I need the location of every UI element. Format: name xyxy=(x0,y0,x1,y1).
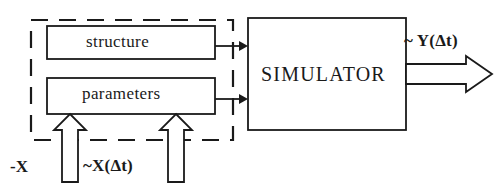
simulator-box-label: SIMULATOR xyxy=(261,64,386,84)
x-delta-block-arrow xyxy=(160,114,192,182)
simulator-block-diagram: structure parameters SIMULATOR -X ~X(Δt)… xyxy=(0,0,502,192)
diagram-canvas xyxy=(0,0,502,192)
x-input-block-arrow xyxy=(54,114,86,182)
parameters-to-simulator-connector xyxy=(215,94,248,104)
structure-to-simulator-connector xyxy=(215,41,248,51)
structure-box-label: structure xyxy=(86,33,149,50)
y-delta-block-arrow xyxy=(406,56,492,92)
x-delta-signal-label: ~X(Δt) xyxy=(83,157,133,174)
parameters-box-label: parameters xyxy=(82,85,161,102)
y-delta-signal-label: ~ Y(Δt) xyxy=(404,32,458,49)
x-input-signal-label: -X xyxy=(10,158,28,175)
